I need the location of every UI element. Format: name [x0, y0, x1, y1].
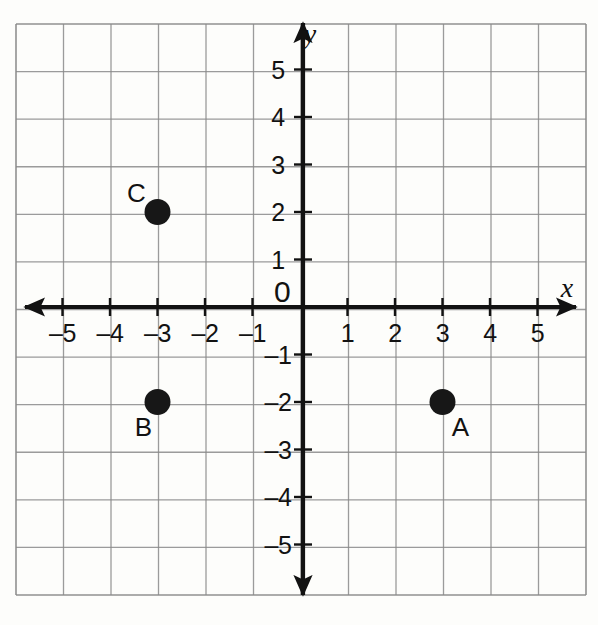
point-label-c: C [127, 180, 146, 206]
x-tick-label-5: 5 [531, 321, 544, 346]
coordinate-plane-figure: –5–4–3–2–11234554321–1–2–3–4–50xyABC [0, 0, 598, 625]
point-label-a: A [452, 414, 469, 440]
plot-canvas [0, 0, 598, 625]
y-tick-label-2: 2 [271, 200, 284, 225]
x-tick-label-neg1: –1 [239, 321, 266, 346]
x-tick-label-2: 2 [388, 321, 401, 346]
data-point-c [145, 199, 171, 225]
x-tick-label-neg3: –3 [144, 321, 171, 346]
y-axis-label: y [304, 20, 316, 48]
x-tick-label-4: 4 [483, 321, 496, 346]
y-tick-label-4: 4 [271, 105, 284, 130]
y-tick-label-3: 3 [271, 152, 284, 177]
origin-label: 0 [274, 277, 290, 307]
x-tick-label-neg4: –4 [97, 321, 124, 346]
x-tick-label-1: 1 [341, 321, 354, 346]
x-axis-label: x [561, 274, 573, 302]
x-tick-label-neg5: –5 [49, 321, 76, 346]
y-tick-label-neg2: –2 [265, 390, 292, 415]
x-tick-label-neg2: –2 [192, 321, 219, 346]
y-tick-label-1: 1 [271, 247, 284, 272]
y-tick-label-neg5: –5 [265, 532, 292, 557]
y-tick-label-neg1: –1 [265, 342, 292, 367]
y-tick-label-5: 5 [271, 57, 284, 82]
x-tick-label-3: 3 [436, 321, 449, 346]
point-label-b: B [135, 414, 152, 440]
y-tick-label-neg3: –3 [265, 437, 292, 462]
y-tick-label-neg4: –4 [265, 485, 292, 510]
